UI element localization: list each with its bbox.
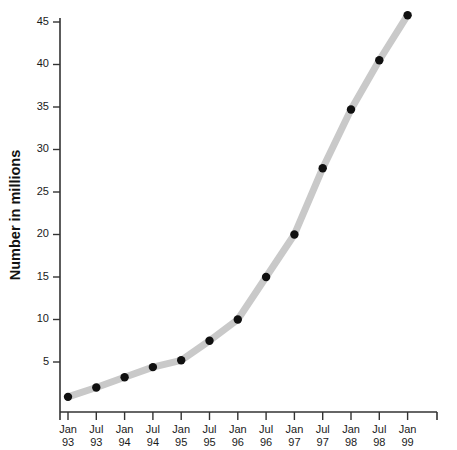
x-tick-label: Jul98 — [372, 423, 386, 448]
y-tick-label: 15 — [37, 270, 49, 282]
data-point-marker — [262, 273, 270, 281]
x-tick-label: Jul95 — [202, 423, 216, 448]
data-point-marker — [92, 383, 100, 391]
chart-canvas: 51015202530354045 Jan93Jul93Jan94Jul94Ja… — [0, 0, 457, 450]
y-tick-label: 20 — [37, 227, 49, 239]
x-tick-label: Jul94 — [146, 423, 160, 448]
data-point-marker — [205, 337, 213, 345]
y-tick-label: 10 — [37, 312, 49, 324]
y-tick-label: 5 — [43, 355, 49, 367]
data-point-marker — [347, 105, 355, 113]
y-tick-label: 45 — [37, 15, 49, 27]
y-tick-label: 35 — [37, 100, 49, 112]
data-point-marker — [319, 164, 327, 172]
line-chart: 51015202530354045 Jan93Jul93Jan94Jul94Ja… — [0, 0, 457, 450]
y-tick-label: 25 — [37, 185, 49, 197]
x-tick-label: Jul93 — [89, 423, 103, 448]
data-point-marker — [64, 393, 72, 401]
y-tick-label: 30 — [37, 142, 49, 154]
y-axis-title: Number in millions — [7, 150, 23, 281]
data-point-marker — [375, 56, 383, 64]
data-point-marker — [234, 315, 242, 323]
data-point-marker — [177, 356, 185, 364]
data-point-marker — [290, 230, 298, 238]
plot-background — [0, 0, 457, 450]
y-axis-title-label: Number in millions — [7, 150, 23, 281]
x-tick-label: Jul96 — [259, 423, 273, 448]
data-point-marker — [120, 373, 128, 381]
data-point-marker — [403, 11, 411, 19]
data-point-marker — [149, 363, 157, 371]
y-tick-label: 40 — [37, 57, 49, 69]
x-tick-label: Jul97 — [316, 423, 330, 448]
